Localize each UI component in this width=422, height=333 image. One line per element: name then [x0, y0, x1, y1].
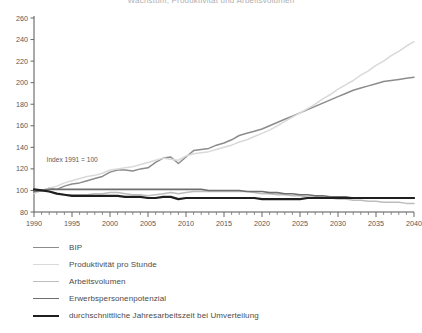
legend-item[interactable]: Arbeitsvolumen — [30, 273, 422, 290]
legend-item-label: BIP — [69, 243, 82, 252]
svg-text:2005: 2005 — [140, 219, 156, 228]
legend-item-label: Arbeitsvolumen — [69, 277, 126, 286]
svg-text:180: 180 — [16, 100, 28, 109]
legend-item[interactable]: Erwerbspersonenpotenzial — [30, 290, 422, 307]
legend-item[interactable]: durchschnittliche Jahresarbeitszeit bei … — [30, 307, 422, 324]
svg-text:1990: 1990 — [26, 219, 42, 228]
line-chart-plot: 80100120140160180200220240260 1990199520… — [0, 0, 422, 240]
svg-text:1995: 1995 — [64, 219, 80, 228]
svg-text:140: 140 — [16, 143, 28, 152]
legend-swatch-line-icon — [33, 298, 59, 299]
svg-text:2025: 2025 — [292, 219, 308, 228]
legend-item[interactable]: Produktivität pro Stunde — [30, 256, 422, 273]
annotation-text: Index 1991 = 100 — [47, 156, 98, 163]
legend-swatch-line-icon — [33, 264, 59, 265]
svg-text:240: 240 — [16, 35, 28, 44]
chart-container: Wachstum, Produktivität und Arbeitsvolum… — [0, 0, 422, 333]
svg-text:120: 120 — [16, 164, 28, 173]
y-axis: 80100120140160180200220240260 — [16, 14, 34, 217]
svg-text:2000: 2000 — [102, 219, 118, 228]
index-annotation: Index 1991 = 100 — [47, 156, 98, 163]
svg-text:2020: 2020 — [254, 219, 270, 228]
legend-swatch-line-icon — [33, 281, 59, 282]
legend-item-label: Erwerbspersonenpotenzial — [69, 294, 166, 303]
svg-text:2015: 2015 — [216, 219, 232, 228]
legend-item[interactable]: BIP — [30, 239, 422, 256]
svg-text:2035: 2035 — [368, 219, 384, 228]
svg-text:220: 220 — [16, 57, 28, 66]
series-line-1 — [34, 42, 414, 194]
svg-text:200: 200 — [16, 78, 28, 87]
svg-text:100: 100 — [16, 186, 28, 195]
x-axis: 1990199520002005201020152020202520302035… — [26, 212, 422, 228]
svg-text:160: 160 — [16, 121, 28, 130]
svg-text:80: 80 — [20, 208, 28, 217]
svg-text:2010: 2010 — [178, 219, 194, 228]
series-lines — [34, 42, 414, 204]
svg-text:2030: 2030 — [330, 219, 346, 228]
svg-text:2040: 2040 — [406, 219, 422, 228]
svg-text:260: 260 — [16, 14, 28, 23]
legend-item-label: Produktivität pro Stunde — [69, 260, 157, 269]
legend-item-label: durchschnittliche Jahresarbeitszeit bei … — [69, 311, 259, 320]
legend-swatch-line-icon — [33, 315, 59, 317]
legend-swatch-line-icon — [33, 247, 59, 248]
chart-legend: BIPProduktivität pro StundeArbeitsvolume… — [30, 239, 422, 324]
